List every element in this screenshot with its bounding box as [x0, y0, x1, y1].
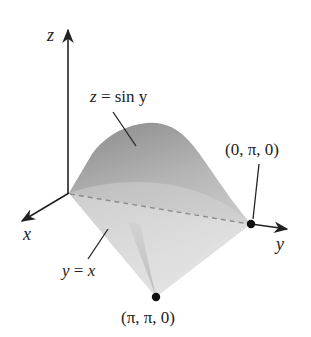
y-axis [251, 224, 287, 229]
leader-plane-eq [88, 229, 108, 259]
plane-eq-lhs: y [62, 261, 70, 280]
surface-eq-lhs: z [90, 87, 97, 106]
point-pi-pi-0-label: (π, π, 0) [121, 309, 175, 326]
point-0-pi-0 [247, 220, 255, 228]
plane-equation-label: y = x [62, 262, 95, 279]
surface-eq-rhs: sin y [115, 87, 148, 106]
x-axis [22, 193, 69, 221]
point-pi-pi-0 [152, 293, 160, 301]
plane-eq-equals: = [74, 261, 84, 280]
x-axis-label: x [23, 225, 31, 243]
z-axis-label: z [47, 26, 54, 44]
surface-diagram [0, 0, 311, 337]
surface-eq-equals: = [101, 87, 111, 106]
plane-eq-rhs: x [88, 261, 96, 280]
surface-equation-label: z = sin y [90, 88, 147, 105]
point-0-pi-0-label: (0, π, 0) [225, 141, 279, 158]
y-axis-label: y [276, 235, 284, 253]
leader-point-a [253, 164, 259, 219]
